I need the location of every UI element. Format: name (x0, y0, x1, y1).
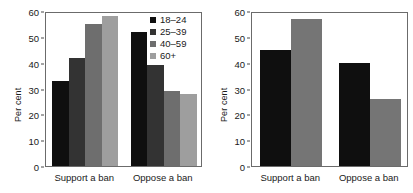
bar (69, 58, 86, 167)
legend-label: 25–39 (160, 27, 186, 37)
y-tick-label: 50 (223, 32, 245, 43)
y-tick-mark (41, 12, 44, 13)
x-tick-label: Oppose a ban (133, 172, 193, 183)
y-tick-mark (41, 141, 44, 142)
y-tick-mark (247, 115, 250, 116)
y-tick-mark (247, 141, 250, 142)
chart-figure: Per cent 0102030405060 Support a banOppo… (0, 0, 413, 193)
bar (370, 99, 401, 166)
legend-swatch-icon (150, 41, 156, 47)
bar (164, 91, 181, 166)
x-tick-label: Oppose a ban (339, 172, 399, 183)
y-tick-mark (41, 63, 44, 64)
y-tick-mark (41, 167, 44, 168)
bar-series-container (252, 13, 407, 166)
bar (131, 32, 148, 166)
legend-item: 18–24 (150, 15, 186, 25)
y-axis-title: Per cent (13, 88, 23, 122)
legend-label: 18–24 (160, 15, 186, 25)
y-tick-mark (247, 89, 250, 90)
y-tick-label: 40 (223, 58, 245, 69)
y-tick-label: 50 (17, 32, 39, 43)
bar (85, 24, 102, 166)
legend-label: 40–59 (160, 39, 186, 49)
y-tick-mark (247, 12, 250, 13)
bar-group (260, 13, 322, 166)
chart-panel-age: Per cent 0102030405060 Support a banOppo… (0, 0, 207, 193)
y-tick-label: 0 (17, 162, 39, 173)
x-tick-label: Support a ban (260, 172, 320, 183)
y-axis-title: Per cent (219, 88, 229, 122)
y-tick-label: 10 (223, 136, 245, 147)
y-tick-label: 10 (17, 136, 39, 147)
legend-swatch-icon (150, 53, 156, 59)
y-tick-mark (41, 115, 44, 116)
legend-item: 40–59 (150, 39, 186, 49)
bar (147, 65, 164, 166)
bar (291, 19, 322, 166)
bar (339, 63, 370, 166)
legend-swatch-icon (150, 17, 156, 23)
bar (180, 94, 197, 166)
y-tick-label: 0 (223, 162, 245, 173)
x-tick-label: Support a ban (54, 172, 114, 183)
y-tick-label: 60 (223, 7, 245, 18)
legend-label: 60+ (160, 51, 176, 61)
y-tick-label: 40 (17, 58, 39, 69)
y-tick-mark (247, 63, 250, 64)
y-tick-mark (41, 89, 44, 90)
bar (260, 50, 291, 166)
bar-group (339, 13, 401, 166)
legend-swatch-icon (150, 29, 156, 35)
plot-area (251, 12, 408, 167)
bar (52, 81, 69, 166)
y-tick-mark (247, 167, 250, 168)
y-tick-mark (41, 37, 44, 38)
chart-panel-class: Per cent 0102030405060 Support a banOppo… (207, 0, 413, 193)
y-tick-mark (247, 37, 250, 38)
legend-item: 25–39 (150, 27, 186, 37)
bar (102, 16, 119, 166)
legend: 18–2425–3940–5960+ (150, 15, 186, 61)
legend-item: 60+ (150, 51, 186, 61)
y-tick-label: 60 (17, 7, 39, 18)
bar-group (52, 13, 118, 166)
